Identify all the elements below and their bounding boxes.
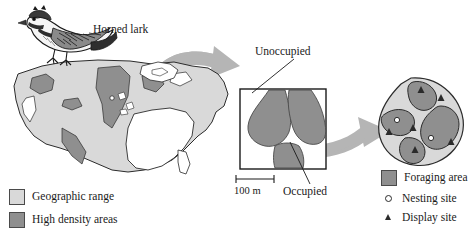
legend-label: Geographic range: [32, 191, 114, 203]
legend-item-geographic-range: Geographic range: [9, 189, 118, 205]
square-swatch-icon: [9, 189, 25, 205]
territory-map: [373, 76, 469, 172]
occupied-label: Occupied: [283, 186, 327, 198]
square-swatch-icon: [381, 170, 397, 186]
open-circle-marker-icon: [381, 195, 395, 202]
legend-right: Foraging area Nesting site Display site: [381, 170, 468, 230]
unoccupied-label: Unoccupied: [255, 46, 311, 58]
square-swatch-icon: [9, 212, 25, 228]
legend-label: Nesting site: [402, 193, 457, 205]
scale-bar-label: 100 m: [234, 186, 261, 197]
occupied-leader-line: [288, 140, 318, 186]
legend-item-nesting-site: Nesting site: [381, 193, 468, 205]
legend-left: Geographic range High density areas: [9, 189, 118, 235]
species-label: Horned lark: [93, 24, 148, 36]
horned-lark-scale-figure: Horned lark Unoccupied Occupied 100 m: [0, 0, 471, 246]
legend-label: Foraging area: [404, 172, 468, 184]
legend-item-high-density: High density areas: [9, 212, 118, 228]
scale-bar: [234, 174, 284, 184]
legend-label: Display site: [402, 212, 457, 224]
legend-item-display-site: Display site: [381, 212, 468, 224]
filled-triangle-marker-icon: [381, 214, 395, 220]
legend-item-foraging-area: Foraging area: [381, 170, 468, 186]
unoccupied-leader-line: [246, 57, 296, 95]
legend-label: High density areas: [32, 214, 118, 226]
horned-lark-illustration: [13, 2, 117, 74]
